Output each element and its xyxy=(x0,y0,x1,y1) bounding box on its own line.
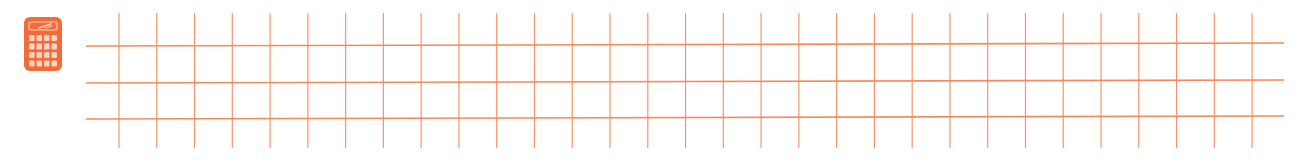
grid-lines xyxy=(0,0,1293,161)
graph-paper-banner xyxy=(0,0,1293,161)
